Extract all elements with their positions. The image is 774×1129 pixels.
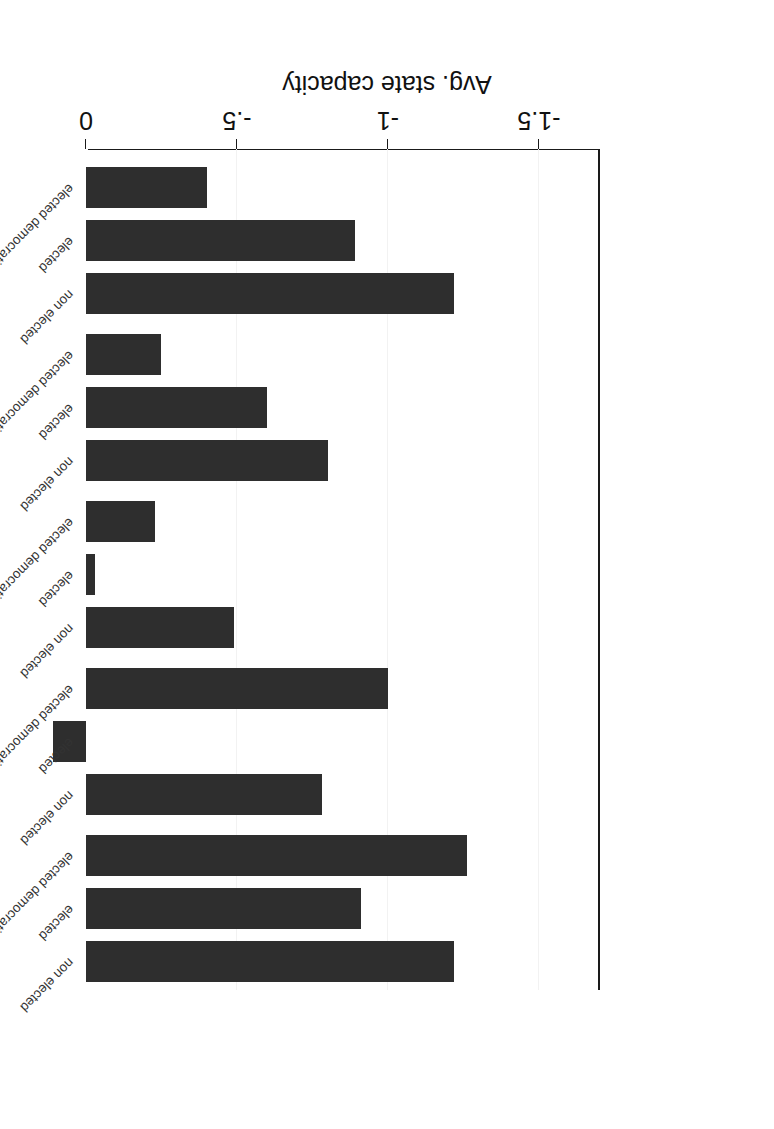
bar [86, 554, 95, 595]
bar [86, 440, 328, 481]
tick-mark [85, 139, 86, 149]
category-tick-label: elected democratic [0, 349, 77, 440]
value-axis-title: Avg. state capacity [0, 70, 774, 99]
bar [86, 835, 467, 876]
value-axis-line [88, 149, 600, 150]
bar [86, 607, 234, 648]
bar [86, 941, 454, 982]
category-tick-label: elected [36, 402, 77, 443]
category-axis-line [598, 149, 600, 990]
category-tick-label: elected democratic [0, 516, 77, 607]
bar [86, 273, 454, 314]
category-tick-label: non elected [17, 956, 77, 1016]
category-tick-label: non elected [17, 288, 77, 348]
bar [86, 220, 355, 261]
bar [86, 167, 207, 208]
category-tick-label: non elected [17, 455, 77, 515]
bar [86, 668, 388, 709]
value-tick-label: -1 [377, 106, 399, 135]
value-tick-label: -1.5 [517, 106, 560, 135]
tick-mark [538, 139, 539, 149]
category-tick-label: non elected [17, 622, 77, 682]
category-tick-label: elected [36, 903, 77, 944]
category-tick-label: elected [36, 569, 77, 610]
tick-mark [236, 139, 237, 149]
category-tick-label: elected democratic [0, 182, 77, 273]
bar-chart: 0-.5-1-1.5 non electedelectedelected dem… [0, 0, 774, 1129]
bar [86, 501, 155, 542]
gridline [538, 149, 539, 990]
category-tick-label: non elected [17, 789, 77, 849]
value-tick-label: -.5 [222, 106, 251, 135]
category-tick-label: elected democratic [0, 850, 77, 941]
bar [86, 334, 162, 375]
category-tick-label: elected [36, 235, 77, 276]
tick-mark [387, 139, 388, 149]
bar [86, 888, 361, 929]
bar [86, 387, 267, 428]
value-tick-label: 0 [79, 106, 93, 135]
rotated-figure: 0-.5-1-1.5 non electedelectedelected dem… [0, 0, 774, 1129]
bar [86, 774, 322, 815]
